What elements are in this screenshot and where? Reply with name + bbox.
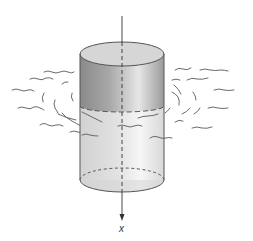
fluid-lines-right — [165, 68, 234, 128]
fluid-lines-left — [12, 71, 86, 133]
arrowhead-icon — [120, 214, 125, 221]
cylinder-diagram: x — [0, 0, 253, 241]
axis-label: x — [118, 223, 125, 234]
